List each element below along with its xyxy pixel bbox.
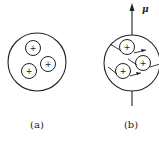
plus-sign: + [26, 67, 33, 76]
diagram-canvas: + + + (a) μ + + [0, 0, 159, 141]
plus-sign: + [30, 44, 37, 53]
particle-a-3: + [41, 57, 56, 72]
panel-a: + + + (a) [8, 33, 66, 130]
particle-a-1: + [26, 41, 41, 56]
moment-label: μ [142, 4, 149, 14]
plus-sign: + [120, 67, 127, 76]
particle-a-2: + [22, 64, 37, 79]
plus-sign: + [45, 60, 52, 69]
panel-b: μ + + + (b) [104, 3, 159, 130]
panel-label-b: (b) [124, 119, 138, 130]
plus-sign: + [140, 59, 147, 68]
panel-label-a: (a) [30, 119, 44, 130]
arrow-up-icon [130, 3, 135, 11]
plus-sign: + [124, 43, 131, 52]
